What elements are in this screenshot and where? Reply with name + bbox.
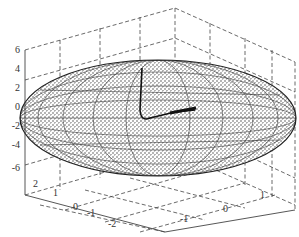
svg-text:-2: -2: [108, 218, 116, 229]
svg-text:-2: -2: [12, 120, 20, 131]
svg-text:-4: -4: [12, 139, 20, 150]
ellipsoid-surface: [20, 60, 296, 176]
y-axis-ticks: 2 1 0 -1 -2: [33, 178, 116, 229]
z-axis-ticks: 6 4 2 0 -2 -4 -6: [12, 44, 20, 173]
svg-text:0: 0: [15, 101, 20, 112]
svg-text:0: 0: [223, 203, 228, 214]
chart-3d-ellipsoid: 6 4 2 0 -2 -4 -6 2 1 0 -1 -2 -1 0 1: [0, 0, 299, 237]
svg-text:6: 6: [15, 44, 20, 55]
svg-text:4: 4: [15, 63, 20, 74]
svg-text:1: 1: [53, 187, 58, 198]
svg-text:-1: -1: [180, 213, 188, 224]
svg-text:-1: -1: [87, 207, 95, 218]
svg-text:2: 2: [15, 82, 20, 93]
svg-text:0: 0: [73, 201, 78, 212]
svg-text:1: 1: [260, 189, 265, 200]
x-axis-ticks: -1 0 1: [180, 189, 265, 224]
svg-text:-6: -6: [12, 162, 20, 173]
svg-text:2: 2: [33, 178, 38, 189]
